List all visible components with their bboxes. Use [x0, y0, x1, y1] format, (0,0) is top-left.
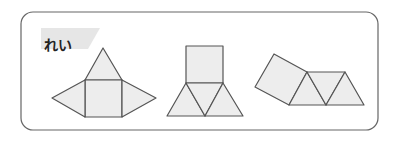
example-label: れい — [44, 34, 72, 54]
diagram-canvas — [0, 0, 400, 141]
